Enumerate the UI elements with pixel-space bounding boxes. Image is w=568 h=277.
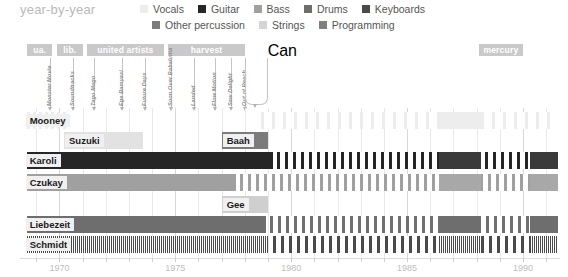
album-title: Soon Over Babaluma [167, 48, 173, 106]
axis-tick [175, 258, 176, 262]
label-band-unitedartists: united artists [87, 44, 163, 56]
album-marker[interactable]: Ege Bamyasi [122, 58, 123, 108]
legend-label: Bass [267, 3, 290, 15]
album-marker[interactable]: Soundtracks [73, 58, 74, 108]
lane-karoli [0, 152, 568, 169]
axis-tick [36, 258, 37, 262]
axis-tick [314, 258, 315, 262]
axis-tick-label: 1975 [165, 263, 185, 273]
bar-segment[interactable] [530, 152, 558, 169]
legend-item-programming[interactable]: Programming [319, 19, 395, 31]
bar-segment[interactable] [27, 152, 273, 169]
lane-liebezeit [0, 216, 568, 233]
legend-label: Vocals [153, 3, 184, 15]
axis-tick [500, 258, 501, 262]
axis-tick [430, 258, 431, 262]
row-label-czukay: Czukay [26, 176, 67, 189]
row-label-mooney: Mooney [26, 114, 70, 127]
legend-label: Drums [317, 3, 348, 15]
bar-segment[interactable] [273, 236, 558, 253]
row-label-schmidt: Schmidt [26, 238, 71, 251]
album-title: Tago Mago [90, 76, 96, 106]
album-title: Landed [190, 86, 196, 107]
axis-tick [338, 258, 339, 262]
row-label-liebezeit: Liebezeit [26, 218, 75, 231]
album-marker[interactable]: Tago Mago [94, 58, 95, 108]
legend-row-2: Other percussionStringsProgramming [140, 17, 568, 33]
legend-label: Keyboards [375, 3, 425, 15]
legend-swatch-icon [152, 21, 160, 29]
bar-segment[interactable] [439, 236, 481, 253]
legend-swatch-icon [198, 5, 206, 13]
bar-segment[interactable] [240, 174, 558, 191]
label-band-harvest: harvest [168, 44, 244, 56]
album-title: Can [268, 42, 297, 60]
album-title: Soundtracks [69, 71, 75, 106]
row-label-gee: Gee [223, 198, 249, 211]
legend-item-guitar[interactable]: Guitar [198, 3, 240, 15]
row-label-suzuki: Suzuki [65, 134, 104, 147]
plot-area: MooneySuzukiBaahKaroliCzukayGeeLiebezeit… [0, 108, 568, 258]
album-title: Future Days [141, 73, 147, 106]
can-bracket [245, 58, 268, 105]
legend-label: Other percussion [165, 19, 245, 31]
bar-segment[interactable] [270, 216, 557, 233]
legend-item-drums[interactable]: Drums [304, 3, 348, 15]
axis-tick [129, 258, 130, 262]
legend-item-strings[interactable]: Strings [259, 19, 305, 31]
bar-segment[interactable] [277, 152, 557, 169]
album-title: Flow Motion [211, 72, 217, 106]
axis-tick [222, 258, 223, 262]
axis-tick [384, 258, 385, 262]
legend: VocalsGuitarBassDrumsKeyboards Other per… [140, 1, 568, 33]
row-label-karoli: Karoli [26, 154, 61, 167]
album-title: Saw Delight [227, 73, 233, 106]
lane-czukay [0, 174, 568, 191]
axis-tick-label: 1970 [49, 263, 69, 273]
lane-gee [0, 196, 568, 213]
axis-tick-label: 1990 [513, 263, 533, 273]
legend-item-keyboards[interactable]: Keyboards [362, 3, 425, 15]
legend-item-other-percussion[interactable]: Other percussion [152, 19, 245, 31]
legend-label: Programming [332, 19, 395, 31]
album-marker[interactable]: Saw Delight [231, 58, 232, 108]
axis-tick [198, 258, 199, 262]
bar-segment[interactable] [530, 174, 558, 191]
axis-tick [245, 258, 246, 262]
legend-item-bass[interactable]: Bass [254, 3, 290, 15]
axis-tick [291, 258, 292, 262]
x-axis: 19701975198019851990 [0, 258, 568, 277]
bar-segment[interactable] [439, 216, 481, 233]
album-title: Ege Bamyasi [118, 70, 124, 106]
legend-swatch-icon [140, 5, 148, 13]
axis-tick [546, 258, 547, 262]
axis-tick [152, 258, 153, 262]
album-marker[interactable]: Soon Over Babaluma [171, 58, 172, 108]
legend-item-vocals[interactable]: Vocals [140, 3, 184, 15]
bar-segment[interactable] [530, 236, 558, 253]
bar-segment[interactable] [530, 216, 558, 233]
legend-row-1: VocalsGuitarBassDrumsKeyboards [140, 1, 568, 17]
axis-tick [83, 258, 84, 262]
axis-tick [361, 258, 362, 262]
bar-segment[interactable] [439, 112, 481, 129]
axis-tick [523, 258, 524, 262]
axis-tick [477, 258, 478, 262]
legend-swatch-icon [319, 21, 327, 29]
legend-swatch-icon [304, 5, 312, 13]
axis-tick [407, 258, 408, 262]
label-band-lib: lib. [57, 44, 82, 56]
bar-segment[interactable] [261, 112, 558, 129]
album-marker[interactable]: Future Days [145, 58, 146, 108]
lane-schmidt [0, 236, 568, 253]
legend-label: Strings [272, 19, 305, 31]
legend-label: Guitar [211, 3, 240, 15]
axis-tick-label: 1985 [397, 263, 417, 273]
album-marker[interactable]: Flow Motion [215, 58, 216, 108]
row-label-baah: Baah [223, 134, 254, 147]
bar-segment[interactable] [439, 174, 481, 191]
bar-segment[interactable] [439, 152, 481, 169]
album-marker[interactable]: Monster Movie [50, 58, 51, 108]
axis-tick [59, 258, 60, 262]
album-marker[interactable]: Landed [194, 58, 195, 108]
